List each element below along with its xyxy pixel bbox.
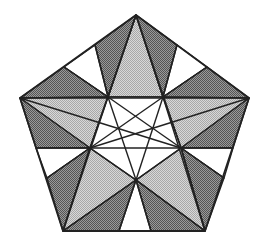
pentagon-star-diagram	[0, 0, 266, 244]
shaded-regions	[20, 15, 249, 231]
